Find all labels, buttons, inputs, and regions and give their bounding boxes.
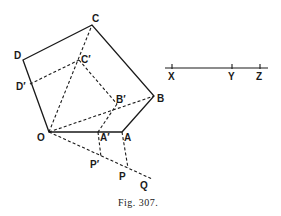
figure-caption: Fig. 307.: [118, 197, 158, 208]
label-p-prime: P′: [90, 159, 100, 170]
label-c-prime: C′: [81, 54, 91, 65]
label-b-prime: B′: [116, 94, 126, 105]
label-a-prime: A′: [100, 132, 110, 143]
label-o: O: [37, 132, 45, 143]
label-b: B: [157, 93, 164, 104]
line-o-c: [49, 25, 92, 132]
line-c-prime-b-prime: [79, 60, 117, 104]
label-y: Y: [228, 71, 235, 82]
label-a: A: [124, 132, 131, 143]
geometry-figure: C D C′ D′ B B′ O A A′ P′ P Q X Y Z Fig. …: [0, 0, 281, 216]
label-p: P: [119, 171, 126, 182]
label-x: X: [168, 71, 175, 82]
label-d: D: [14, 50, 21, 61]
pentagon-oabcd: [23, 25, 154, 132]
label-z: Z: [256, 71, 262, 82]
label-d-prime: D′: [16, 81, 26, 92]
line-b-prime-a-prime: [98, 104, 117, 132]
label-c: C: [92, 13, 99, 24]
line-d-prime-c-prime: [30, 60, 79, 84]
label-q: Q: [140, 180, 148, 191]
